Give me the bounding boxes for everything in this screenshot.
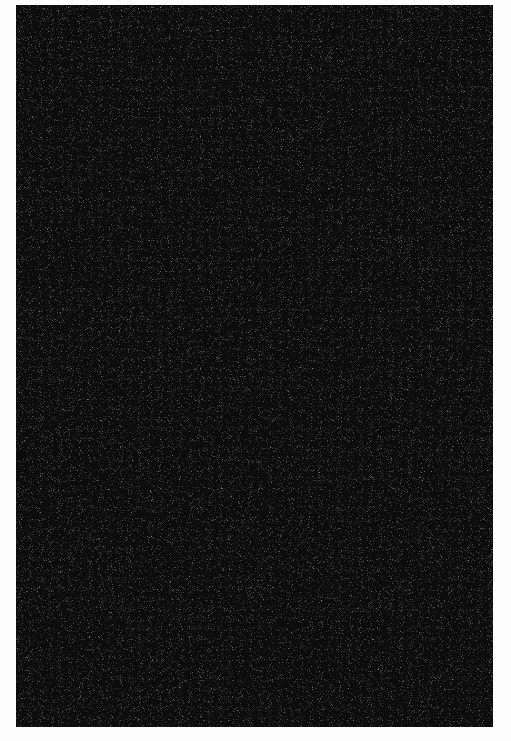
dark-texture-panel: Dark black speckled texture rectangle on… [16,5,493,727]
white-background: Dark black speckled texture rectangle on… [0,0,511,741]
noise-texture [16,5,493,727]
